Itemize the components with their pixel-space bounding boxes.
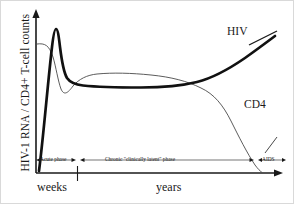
x-axis-arrowhead (274, 169, 283, 176)
series-label-hiv: HIV (227, 26, 247, 38)
series-label-cd4: CD4 (244, 99, 266, 111)
cd4-curve (37, 44, 262, 173)
chronic-phase-arrow-left (80, 158, 85, 162)
hiv-curve (39, 29, 275, 171)
chronic-phase-arrow-right (250, 158, 255, 162)
hiv-natural-history-figure: HIV-1 RNA / CD4+ T-cell counts HIV CD4 A… (0, 0, 294, 204)
x-axis-label-years: years (156, 181, 181, 193)
acute-phase-arrow-right (72, 158, 77, 162)
y-axis-arrowhead (32, 9, 39, 18)
y-axis-title: HIV-1 RNA / CD4+ T-cell counts (20, 13, 32, 173)
phase-label-acute: Acute phase (40, 157, 67, 162)
phase-label-chronic: Chronic "clinically latent" phase (105, 157, 175, 162)
aids-leader-line (265, 137, 277, 153)
x-axis-label-weeks: weeks (37, 181, 67, 193)
aids-phase-arrow-right (282, 158, 286, 162)
phase-label-aids: AIDS (262, 157, 275, 162)
